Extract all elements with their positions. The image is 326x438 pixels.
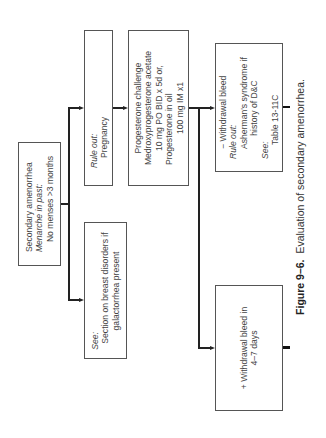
connector-progesterone-trunk — [198, 107, 200, 348]
node-line: Progesterone in oil — [164, 51, 174, 165]
node-line: history of D&C — [249, 57, 259, 159]
node-secondary-amenorrhea: Secondary amenorrhea Menarche in past: N… — [18, 142, 61, 266]
node-line: galactorrhea present — [111, 232, 121, 349]
arrow-icon — [210, 106, 215, 110]
connector-stub-negative — [283, 106, 290, 108]
arrow-icon — [79, 298, 84, 302]
node-line: No menses >3 months — [45, 156, 55, 252]
node-line: 10 mg PO BID x 5d or, — [153, 51, 163, 165]
node-line: Asherman's syndrome if — [239, 57, 249, 159]
arrow-icon — [123, 106, 128, 110]
node-text: Secondary amenorrhea Menarche in past: N… — [24, 156, 55, 252]
node-line: Menarche in past: — [34, 156, 44, 252]
node-text: Progesterone challenge Medroxyprogestero… — [132, 51, 184, 165]
figure-label: Figure 9–6. — [294, 260, 306, 315]
node-progesterone-challenge: Progesterone challenge Medroxyprogestero… — [128, 30, 189, 186]
connector-stub-positive — [283, 346, 290, 349]
node-line: Rule out: — [228, 57, 238, 159]
node-line: 4–7 days — [249, 307, 259, 389]
node-positive-withdrawal: + Withdrawal bleed in 4–7 days — [215, 285, 283, 411]
connector-to-breast — [68, 299, 79, 301]
node-line: Rule out: — [88, 48, 98, 168]
node-text: Rule out: Pregnancy — [88, 48, 109, 168]
node-line: Section on breast disorders if — [100, 232, 110, 349]
node-negative-withdrawal: − Withdrawal bleed Rule out: Asherman's … — [215, 43, 283, 172]
figure-caption: Figure 9–6. Evaluation of secondary amen… — [294, 79, 306, 315]
figure-caption-text: Evaluation of secondary amenorrhea. — [294, 79, 306, 254]
connector-to-positive — [198, 347, 210, 349]
node-line: 100 mg IM x1 — [174, 51, 184, 165]
arrow-icon — [79, 106, 84, 110]
node-text: + Withdrawal bleed in 4–7 days — [239, 307, 260, 389]
node-rule-out-pregnancy: Rule out: Pregnancy — [84, 30, 113, 186]
node-line: See: — [259, 57, 269, 159]
connector-pregnancy-to-progesterone — [113, 107, 123, 109]
node-line: Table 13-11C — [270, 57, 280, 159]
node-see-breast-disorders: See: Section on breast disorders if gala… — [84, 222, 127, 359]
node-line: Secondary amenorrhea — [24, 156, 34, 252]
node-line: − Withdrawal bleed — [218, 57, 228, 159]
node-line: Pregnancy — [99, 48, 109, 168]
node-text: See: Section on breast disorders if gala… — [90, 232, 121, 349]
node-line: Progesterone challenge — [132, 51, 142, 165]
node-line: See: — [90, 232, 100, 349]
flowchart-canvas: Secondary amenorrhea Menarche in past: N… — [0, 0, 326, 438]
node-line: + Withdrawal bleed in — [239, 307, 249, 389]
connector-to-pregnancy — [68, 107, 79, 109]
connector-start-trunk — [68, 107, 70, 301]
node-line: Medroxyprogesterone acetate — [143, 51, 153, 165]
arrow-icon — [210, 346, 215, 350]
node-text: − Withdrawal bleed Rule out: Asherman's … — [218, 57, 280, 159]
